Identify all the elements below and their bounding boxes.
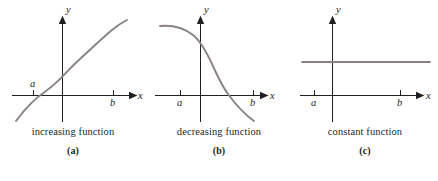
plot-area-b: x y a b <box>146 0 292 126</box>
curve-decreasing <box>160 26 254 121</box>
panel-a-caption: increasing function <box>0 126 146 137</box>
panel-a: x y a b increasing function (a) <box>0 0 146 181</box>
y-axis-label-c: y <box>335 4 341 15</box>
panel-c: x y a b constant function (c) <box>292 0 438 181</box>
plot-area-c: x y a b <box>292 0 438 126</box>
plot-area-a: x y a b <box>0 0 146 126</box>
y-axis-c <box>329 16 336 123</box>
tick-label-a: a <box>311 97 316 108</box>
panel-b-tag: (b) <box>146 145 292 156</box>
panel-b-caption: decreasing function <box>146 126 292 137</box>
x-axis-c <box>300 92 425 99</box>
tick-label-a: a <box>177 97 182 108</box>
y-axis-a <box>59 16 66 123</box>
tick-label-b: b <box>110 97 115 108</box>
figure-increasing-decreasing-constant-functions: x y a b increasing function (a) <box>0 0 438 181</box>
panel-a-tag: (a) <box>0 145 146 156</box>
tick-label-b: b <box>397 97 402 108</box>
x-axis-a <box>12 92 138 99</box>
tick-label-a: a <box>30 78 35 89</box>
panel-c-tag: (c) <box>292 145 438 156</box>
y-axis-label-b: y <box>203 4 209 15</box>
y-axis-label-a: y <box>65 4 71 15</box>
y-axis-b <box>197 16 204 123</box>
panel-c-caption: constant function <box>292 126 438 137</box>
x-axis-label-a: x <box>137 90 143 101</box>
panel-b: x y a b decreasing function (b) <box>146 0 292 181</box>
tick-label-b: b <box>250 97 255 108</box>
x-axis-label-c: x <box>425 90 431 101</box>
x-axis-label-b: x <box>269 90 275 101</box>
